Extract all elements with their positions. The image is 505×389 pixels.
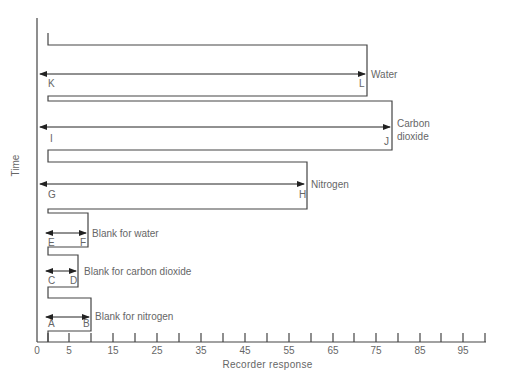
- chromatogram-diagram: [0, 0, 505, 389]
- tick-label-75: 75: [370, 345, 381, 356]
- point-E: E: [48, 237, 55, 248]
- tick-label-0: 0: [34, 345, 40, 356]
- x-axis-label: Recorder response: [0, 359, 505, 370]
- point-A: A: [48, 318, 55, 329]
- tick-label-45: 45: [239, 345, 250, 356]
- point-C: C: [48, 275, 55, 286]
- tick-label-15: 15: [107, 345, 118, 356]
- tick-label-35: 35: [195, 345, 206, 356]
- tick-label-85: 85: [414, 345, 425, 356]
- tick-label-25: 25: [151, 345, 162, 356]
- point-G: G: [48, 189, 56, 200]
- label-blank-nitrogen: Blank for nitrogen: [95, 311, 173, 322]
- point-J: J: [384, 136, 389, 147]
- tick-label-55: 55: [283, 345, 294, 356]
- tick-label-65: 65: [327, 345, 338, 356]
- point-B: B: [83, 318, 90, 329]
- label-water: Water: [371, 69, 397, 80]
- point-I: I: [50, 133, 53, 144]
- point-K: K: [48, 78, 55, 89]
- label-blank-water: Blank for water: [92, 228, 159, 239]
- label-co2-line1: Carbon: [397, 118, 430, 129]
- label-co2-line2: dioxide: [397, 131, 429, 142]
- point-L: L: [359, 78, 365, 89]
- tick-label-5: 5: [66, 345, 72, 356]
- point-D: D: [70, 275, 77, 286]
- label-nitrogen: Nitrogen: [311, 179, 349, 190]
- y-axis-label: Time: [10, 151, 21, 181]
- point-H: H: [299, 189, 306, 200]
- point-F: F: [80, 237, 86, 248]
- label-blank-co2: Blank for carbon dioxide: [84, 266, 191, 277]
- tick-label-95: 95: [457, 345, 468, 356]
- x-ticks: [48, 333, 485, 342]
